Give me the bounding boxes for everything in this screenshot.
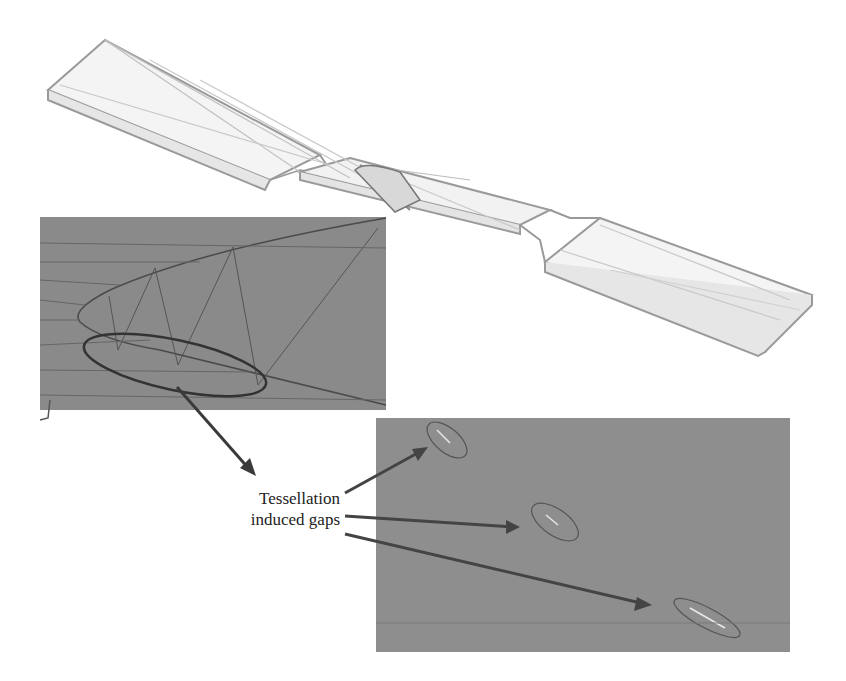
- label-line-1: Tessellation: [205, 488, 340, 509]
- label-line-2: induced gaps: [205, 509, 340, 530]
- tessellation-gaps-label: Tessellation induced gaps: [205, 488, 340, 530]
- arrow-gap-2: [345, 516, 512, 527]
- inset-gap-marks: [0, 0, 846, 681]
- arrow-gap-1: [345, 450, 423, 493]
- arrow-gap-3: [345, 534, 645, 604]
